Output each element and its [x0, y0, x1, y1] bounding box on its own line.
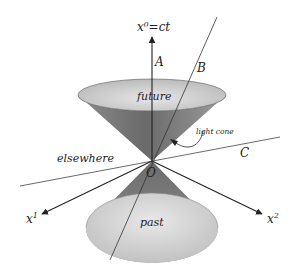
time-axis-label: x⁰=ct [137, 20, 170, 34]
elsewhere-label: elsewhere [57, 152, 114, 165]
light-cone-label: light cone [196, 127, 234, 136]
worldline-b-label: B [196, 61, 206, 75]
worldline-c-label: C [240, 146, 249, 160]
axis-x2-label: x2 [267, 211, 279, 226]
axis-x1-label: x1 [26, 211, 38, 226]
future-label: future [136, 90, 172, 103]
worldline-a-label: A [154, 55, 164, 69]
past-label: past [140, 216, 164, 229]
light-cone-diagram: x⁰=ct A B future light cone elsewhere C … [0, 0, 296, 272]
origin-label: O [146, 166, 156, 180]
